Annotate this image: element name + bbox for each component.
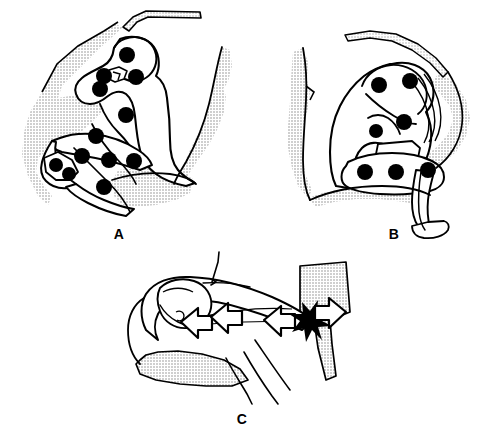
panel-label-b: B — [374, 226, 414, 242]
landmark-dot — [118, 107, 134, 123]
figure-root: A B C — [0, 0, 491, 439]
panel-c-group — [128, 252, 350, 404]
landmark-dot — [49, 158, 63, 172]
landmark-dot — [420, 162, 436, 178]
landmark-dot — [88, 128, 104, 144]
drape-stroke-c-3 — [255, 340, 290, 390]
drape-stroke-c-2 — [244, 352, 278, 404]
panel-label-a: A — [99, 226, 139, 242]
landmark-dot — [402, 73, 418, 89]
maternal-abdominal-shading-b — [288, 48, 312, 198]
panel-a-group — [22, 11, 232, 216]
landmark-dot — [357, 164, 373, 180]
landmark-dot — [74, 148, 90, 164]
landmark-dot — [101, 152, 117, 168]
uterine-ligament-stroke-c — [212, 252, 219, 282]
panel-label-c: C — [222, 411, 262, 427]
fetal-leg-outline-b — [412, 170, 434, 228]
landmark-dot — [371, 77, 387, 93]
figure-canvas — [0, 0, 491, 439]
uterine-wall-upper-a — [123, 11, 201, 31]
landmark-dot — [369, 124, 383, 138]
landmark-dot — [62, 167, 76, 181]
landmark-dot — [119, 47, 135, 63]
landmark-dot — [92, 81, 108, 97]
landmark-dot — [96, 179, 112, 195]
landmark-dot — [128, 69, 144, 85]
panel-b-group — [288, 31, 470, 238]
landmark-dot — [396, 114, 412, 130]
landmark-dot — [388, 164, 404, 180]
landmark-dot — [126, 153, 142, 169]
